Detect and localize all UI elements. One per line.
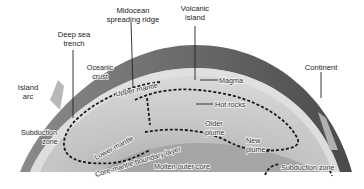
label-older-plume-2: plume bbox=[205, 128, 225, 137]
label-volcanic-island-1: Volcanic bbox=[181, 4, 209, 13]
label-deep-sea-trench-2: trench bbox=[63, 39, 84, 48]
label-oceanic-crust-1: Oceanic bbox=[87, 63, 114, 72]
label-midocean-ridge-2: spreading ridge bbox=[107, 15, 159, 24]
island-arc-shape bbox=[50, 80, 64, 110]
label-new-plume-1: New bbox=[246, 136, 261, 145]
label-oceanic-crust-2: crust bbox=[92, 72, 108, 81]
label-midocean-ridge-1: Midocean bbox=[117, 6, 150, 15]
label-volcanic-island-2: island bbox=[185, 13, 205, 22]
label-subduction-zone-left-1: Subduction bbox=[21, 128, 57, 137]
label-island-arc-2: arc bbox=[23, 92, 34, 101]
label-hot-rocks: Hot rocks bbox=[215, 100, 246, 109]
label-new-plume-2: plume bbox=[246, 145, 266, 154]
label-older-plume-1: Older bbox=[205, 119, 223, 128]
label-island-arc-1: Island bbox=[18, 83, 38, 92]
label-magma: Magma bbox=[219, 76, 243, 85]
label-deep-sea-trench-1: Deep sea bbox=[58, 30, 91, 39]
earth-cross-section-diagram: Deep sea trench Midocean spreading ridge… bbox=[0, 0, 364, 189]
label-molten-outer-core: Molten outer core bbox=[154, 162, 210, 171]
label-subduction-zone-right: Subduction zone bbox=[281, 163, 335, 172]
label-continent: Continent bbox=[305, 63, 338, 72]
label-subduction-zone-left-2: zone bbox=[42, 137, 58, 146]
